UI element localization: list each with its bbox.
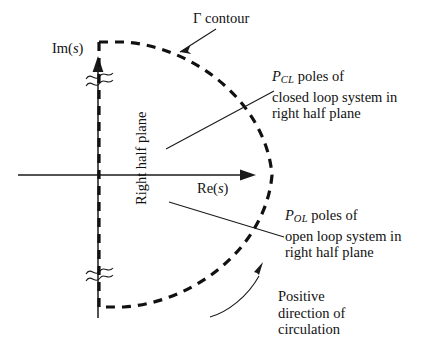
real-axis-label-suffix: ): [224, 180, 229, 196]
closed-loop-poles-leader-line: [166, 91, 274, 149]
closed-loop-poles-symbol: P: [272, 68, 281, 84]
real-axis-label-prefix: Re(: [197, 180, 218, 196]
nyquist-gamma-contour-figure: Γ contour Im(s) Re(s) Right half plane P…: [0, 0, 423, 351]
gamma-contour-leader: [180, 29, 216, 54]
imaginary-axis-label-prefix: Im(: [52, 40, 73, 56]
positive-direction-annotation: Positivedirection ofcirculation: [278, 288, 345, 338]
positive-direction-line1: Positive: [278, 288, 325, 304]
open-loop-poles-annotation: POL poles ofopen loop system inright hal…: [285, 207, 401, 261]
open-loop-poles-subscript: OL: [294, 213, 308, 224]
closed-loop-poles-line1: poles of: [294, 68, 344, 84]
gamma-contour-leader-arrowhead: [180, 45, 191, 54]
positive-direction-arrowhead: [254, 262, 263, 275]
positive-direction-arrow-curve: [210, 276, 259, 317]
open-loop-poles-line1: poles of: [308, 207, 358, 223]
open-loop-poles-symbol: P: [285, 207, 294, 223]
positive-direction-line3: circulation: [278, 321, 340, 337]
gamma-contour-label: Γ contour: [193, 10, 249, 27]
positive-direction-line2: direction of: [278, 305, 345, 321]
open-loop-poles-leader-line: [169, 202, 284, 237]
right-half-plane-label: Right half plane: [133, 189, 150, 205]
closed-loop-poles-line2: closed loop system in: [272, 89, 397, 105]
closed-loop-poles-subscript: CL: [281, 74, 294, 85]
imaginary-axis-label: Im(s): [52, 40, 83, 57]
closed-loop-poles-annotation: PCL poles ofclosed loop system inright h…: [272, 68, 397, 122]
real-axis-arrowhead: [240, 170, 256, 181]
closed-loop-poles-line3: right half plane: [272, 105, 361, 121]
real-axis-label: Re(s): [197, 180, 228, 197]
imaginary-axis-label-suffix: ): [79, 40, 84, 56]
open-loop-poles-line2: open loop system in: [285, 228, 401, 244]
open-loop-poles-line3: right half plane: [285, 244, 374, 260]
